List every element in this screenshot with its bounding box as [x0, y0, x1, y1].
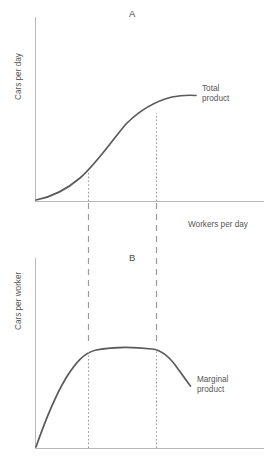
- total-product-curve: [36, 95, 196, 200]
- total-product-label-line2: product: [202, 94, 229, 104]
- panel-a-y-axis-title: Cars per day: [14, 53, 24, 100]
- panel-b-letter: B: [129, 252, 136, 263]
- marginal-product-label-line2: product: [197, 385, 224, 395]
- panel-b-y-axis-title: Cars per worker: [14, 272, 24, 330]
- figure-canvas: [0, 0, 266, 461]
- product-curves-figure: Cars per day A Total product Workers per…: [0, 0, 266, 461]
- marginal-product-label-line1: Marginal: [197, 375, 228, 385]
- marginal-product-curve: [36, 348, 191, 447]
- panel-a-x-axis-title: Workers per day: [188, 220, 248, 230]
- total-product-label-line1: Total: [202, 84, 219, 94]
- panel-a-letter: A: [129, 8, 136, 19]
